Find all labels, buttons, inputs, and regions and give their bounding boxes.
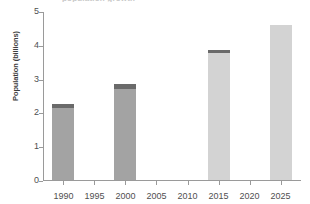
x-tick-label-2025: 2025 [261,191,301,201]
bar-body-2025 [270,25,292,180]
y-tick-mark [39,12,43,13]
chart-title-clipped: population growth [62,0,242,2]
y-tick-label: 1 [34,141,39,152]
bar-2015 [208,50,230,180]
x-tick-mark-2005 [156,181,157,185]
y-tick-mark [39,181,43,182]
bar-cap-2015 [208,50,230,53]
x-tick-mark-2025 [281,181,282,185]
bar-1990 [52,104,74,180]
y-tick-mark [39,46,43,47]
y-tick-label: 4 [34,40,39,51]
bar-body-1990 [52,108,74,180]
plot-area: 012345 19901995200020052010201520202025 [43,12,301,181]
x-tick-mark-2020 [250,181,251,185]
x-tick-mark-1990 [63,181,64,185]
y-tick-mark [39,113,43,114]
y-tick-label: 3 [34,74,39,85]
population-bar-chart: population growth Population (billions) … [0,0,310,204]
y-tick-mark [39,80,43,81]
y-axis-label: Population (billions) [11,16,23,116]
bar-cap-2000 [114,84,136,89]
bar-2000 [114,84,136,180]
y-tick-mark [39,147,43,148]
y-tick-label: 5 [34,6,39,17]
bar-body-2015 [208,53,230,180]
y-tick-label: 2 [34,107,39,118]
x-axis-line [43,180,301,181]
x-tick-mark-2015 [219,181,220,185]
x-tick-mark-2000 [125,181,126,185]
bar-cap-1990 [52,104,74,108]
bar-2025 [270,25,292,180]
bar-body-2000 [114,89,136,180]
y-axis-line [43,12,44,181]
x-tick-mark-2010 [188,181,189,185]
x-tick-mark-1995 [94,181,95,185]
y-tick-label: 0 [34,175,39,186]
